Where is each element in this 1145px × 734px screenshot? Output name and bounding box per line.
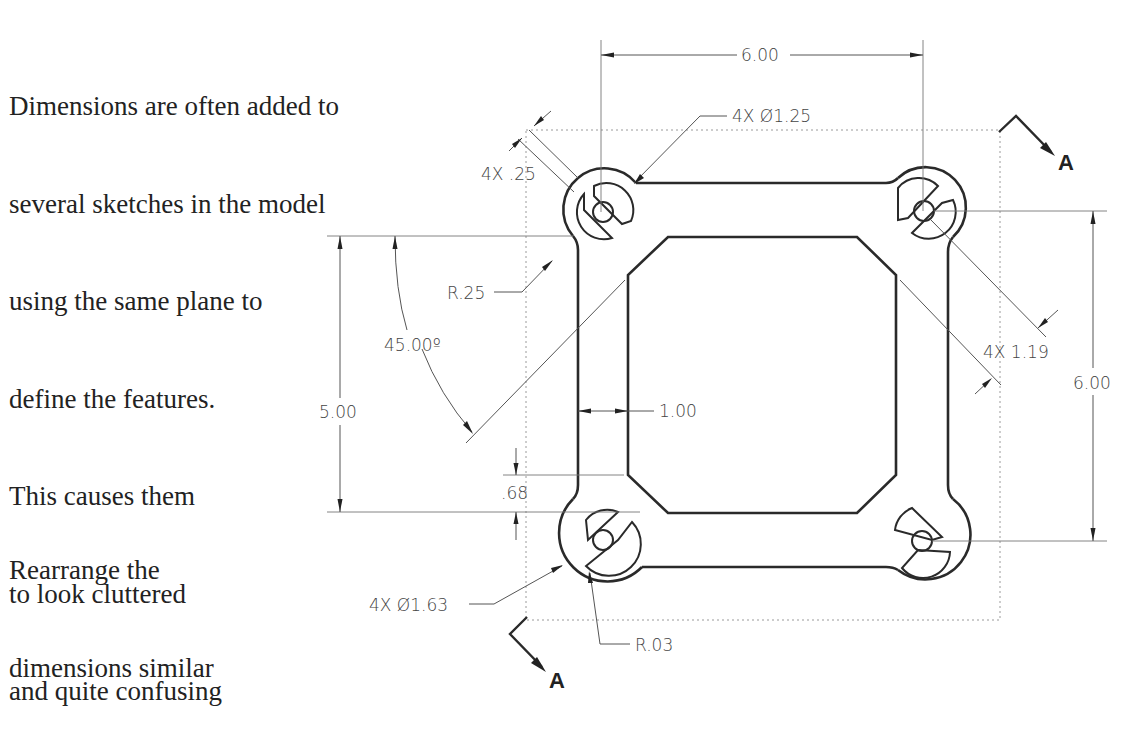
corner-boss-bottom-left bbox=[559, 499, 642, 581]
arrowhead bbox=[588, 571, 593, 583]
arrowhead bbox=[601, 53, 614, 58]
section-arrow-top-right: A bbox=[999, 116, 1074, 175]
dimension-wall-thickness: 1.00 bbox=[578, 401, 697, 421]
dim-label: 45.00º bbox=[384, 335, 441, 355]
dim-label: 6.00 bbox=[741, 45, 779, 65]
corner-boss-top-left bbox=[563, 168, 636, 239]
leader-boss-diameter: 4X Ø1.63 bbox=[369, 565, 563, 615]
dimension-top-width: 6.00 bbox=[601, 40, 923, 212]
dimension-diagonal-distance: 4X 1.19 bbox=[900, 220, 1058, 394]
dim-label: .68 bbox=[501, 483, 528, 503]
section-label: A bbox=[1058, 150, 1074, 175]
dim-label: 6.00 bbox=[1073, 373, 1111, 393]
dimension-slot-width: 4X .25 bbox=[481, 111, 578, 192]
engineering-drawing: 6.00 4X Ø1.25 4X .25 5.00 45.00º bbox=[0, 0, 1145, 734]
arrowhead bbox=[514, 512, 519, 524]
arrowhead bbox=[578, 409, 591, 414]
section-arrow-bottom-left: A bbox=[510, 617, 565, 693]
hole bbox=[593, 530, 613, 550]
dim-label: 1.00 bbox=[659, 401, 697, 421]
arrowhead bbox=[338, 236, 343, 249]
section-label: A bbox=[549, 668, 565, 693]
dim-label: R.03 bbox=[635, 635, 673, 655]
dim-label: 4X Ø1.25 bbox=[732, 106, 811, 126]
leader-small-radius: R.03 bbox=[588, 571, 673, 655]
arrowhead bbox=[1038, 318, 1048, 328]
arrowhead bbox=[615, 409, 628, 414]
corner-boss-bottom-right bbox=[895, 499, 970, 579]
dimension-chamfer-offset: .68 bbox=[501, 448, 624, 540]
leader-fillet-radius: R.25 bbox=[447, 260, 553, 303]
dim-label: R.25 bbox=[447, 283, 485, 303]
dimension-right-height: 6.00 bbox=[932, 211, 1111, 541]
dimension-left-height: 5.00 bbox=[319, 236, 640, 512]
arrowhead bbox=[514, 463, 519, 475]
arrowhead bbox=[338, 499, 343, 512]
dim-label: 5.00 bbox=[319, 402, 357, 422]
inner-window bbox=[628, 237, 896, 513]
dim-label: 4X .25 bbox=[481, 164, 536, 184]
arrowhead bbox=[393, 236, 398, 249]
dim-label: 4X 1.19 bbox=[983, 342, 1049, 362]
arrowhead bbox=[551, 565, 563, 573]
arrowhead bbox=[534, 116, 544, 126]
corner-boss-top-right bbox=[898, 167, 966, 239]
arrowhead bbox=[1091, 528, 1096, 541]
arrowhead bbox=[1091, 211, 1096, 224]
leader-hole-diameter: 4X Ø1.25 bbox=[634, 106, 811, 184]
arrowhead bbox=[910, 53, 923, 58]
dim-label: 4X Ø1.63 bbox=[369, 595, 448, 615]
hole bbox=[912, 531, 932, 551]
hole bbox=[914, 201, 934, 221]
